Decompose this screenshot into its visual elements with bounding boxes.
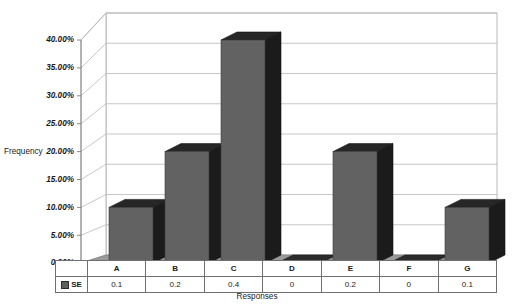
table-row-categories: A B C D E F G bbox=[56, 261, 497, 277]
table-cell-category-E: E bbox=[321, 261, 379, 277]
table-cell-category-D: D bbox=[263, 261, 321, 277]
y-tick-label-10: 10.00% bbox=[30, 203, 74, 212]
legend-label-se: SE bbox=[71, 280, 82, 289]
y-tick-label-15: 15.00% bbox=[30, 175, 74, 184]
table-cell-category-G: G bbox=[438, 261, 496, 277]
y-axis bbox=[77, 40, 81, 263]
table-row-se: SE 0.1 0.2 0.4 0 0.2 0 0.1 bbox=[56, 277, 497, 293]
table-cell-se-F: 0 bbox=[380, 277, 438, 293]
bar-G bbox=[445, 199, 505, 263]
y-tick-label-35: 35.00% bbox=[30, 63, 74, 72]
table-cell-se-E: 0.2 bbox=[321, 277, 379, 293]
table-cell-category-B: B bbox=[146, 261, 204, 277]
bar-E bbox=[333, 144, 393, 263]
table-cell-se-D: 0 bbox=[263, 277, 321, 293]
legend-entry-se: SE bbox=[56, 277, 88, 293]
y-tick-label-25: 25.00% bbox=[30, 119, 74, 128]
plot-side-wall bbox=[81, 13, 106, 263]
data-table: A B C D E F G SE 0.1 0.2 0.4 0 0.2 0 0.1 bbox=[55, 260, 497, 293]
y-tick-label-30: 30.00% bbox=[30, 91, 74, 100]
table-cell-category-A: A bbox=[88, 261, 146, 277]
table-cell-category-C: C bbox=[204, 261, 262, 277]
x-axis-title: Responses bbox=[197, 292, 317, 301]
y-axis-title: Frequency bbox=[4, 147, 43, 156]
table-cell-se-B: 0.2 bbox=[146, 277, 204, 293]
table-cell-se-A: 0.1 bbox=[88, 277, 146, 293]
y-tick-label-40: 40.00% bbox=[30, 35, 74, 44]
table-cell-category-F: F bbox=[380, 261, 438, 277]
chart-container: 40.00% 35.00% 30.00% 25.00% 20.00% 15.00… bbox=[0, 0, 515, 306]
bar-C bbox=[221, 32, 281, 263]
bar-B bbox=[165, 144, 225, 263]
table-cell-se-G: 0.1 bbox=[438, 277, 496, 293]
y-tick-label-5: 5.00% bbox=[30, 231, 74, 240]
table-corner-cell bbox=[56, 261, 88, 277]
table-cell-se-C: 0.4 bbox=[204, 277, 262, 293]
bar-A bbox=[109, 199, 169, 263]
se-swatch-icon bbox=[61, 281, 69, 289]
